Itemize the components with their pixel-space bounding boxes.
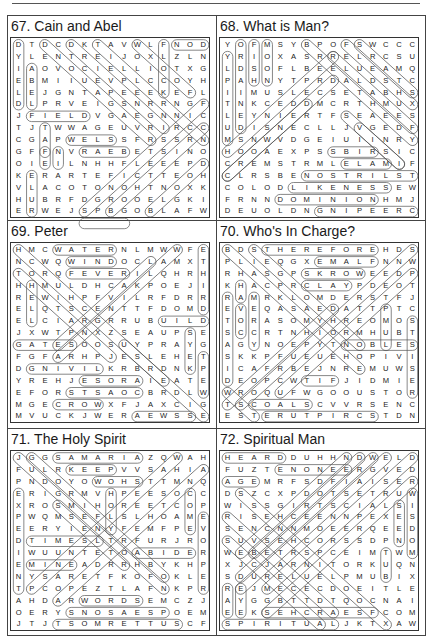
grid-letter: M [313,292,326,304]
grid-letter: F [25,387,38,399]
grid-letter: D [287,205,300,217]
grid-letter: P [170,327,183,339]
grid-letter: S [104,339,117,351]
grid-letter: P [12,476,25,488]
grid-letter: U [52,547,65,559]
letter-grid-cells: JGGSAMARIAZQWAHFULRKEEPVVSAHIAPNDOYOWOHS… [12,452,210,630]
grid-letter: P [261,351,274,363]
grid-letter: U [25,194,38,206]
grid-letter: F [197,98,210,110]
grid-letter: E [170,170,183,182]
grid-letter: A [392,595,405,607]
grid-letter: O [91,595,104,607]
grid-letter: A [38,134,51,146]
grid-letter: K [353,618,366,630]
grid-letter: N [300,559,313,571]
grid-letter: S [65,339,78,351]
grid-letter: U [38,547,51,559]
grid-letter: I [366,170,379,182]
grid-letter: E [131,488,144,500]
grid-letter: I [353,134,366,146]
grid-letter: Q [406,63,419,75]
grid-letter: E [300,351,313,363]
grid-letter: E [12,315,25,327]
grid-letter: O [274,339,287,351]
grid-letter: T [287,75,300,87]
grid-letter: W [366,452,379,464]
grid-letter: V [104,292,117,304]
grid-letter: L [131,292,144,304]
grid-letter: L [353,51,366,63]
grid-letter: M [379,158,392,170]
grid-letter: C [25,256,38,268]
grid-letter: O [353,595,366,607]
grid-letter: M [366,363,379,375]
grid-letter: G [197,339,210,351]
grid-letter: R [78,146,91,158]
grid-letter: Y [274,75,287,87]
grid-letter: T [261,244,274,256]
grid-letter: D [234,571,247,583]
grid-letter: N [247,194,260,206]
grid-letter: D [327,583,340,595]
grid-letter: A [366,500,379,512]
grid-letter: K [366,559,379,571]
grid-letter: T [197,351,210,363]
grid-letter: R [65,488,78,500]
grid-letter: G [12,339,25,351]
grid-letter: R [52,387,65,399]
grid-letter: F [157,523,170,535]
grid-letter: S [234,399,247,411]
grid-letter: P [104,87,117,99]
grid-letter: M [406,547,419,559]
grid-letter: K [183,194,196,206]
grid-letter: U [118,122,131,134]
grid-letter: E [300,511,313,523]
grid-letter: N [274,523,287,535]
letter-grid: DTDCDKTAVWLFNODYLENTREIJOXLZLNIAOVOCIELL… [10,37,210,218]
grid-letter: F [144,303,157,315]
grid-letter: E [340,547,353,559]
grid-letter: E [157,158,170,170]
grid-letter: P [65,583,78,595]
grid-letter: S [234,488,247,500]
grid-letter: P [197,559,210,571]
grid-letter: I [313,375,326,387]
grid-letter: Q [157,452,170,464]
grid-letter: I [52,363,65,375]
grid-letter: R [392,205,405,217]
grid-letter: D [234,122,247,134]
grid-letter: T [353,87,366,99]
grid-letter: T [379,410,392,422]
grid-letter: P [197,363,210,375]
grid-letter: B [247,547,260,559]
grid-letter: O [313,535,326,547]
grid-letter: D [234,63,247,75]
grid-letter: C [52,182,65,194]
grid-letter: Y [247,110,260,122]
grid-letter: L [221,110,234,122]
grid-letter: S [366,387,379,399]
grid-letter: N [131,98,144,110]
grid-letter: G [261,595,274,607]
puzzle-68: 68. What is Man? YOFMSYBPOFSWCCCYRIOXASR… [219,18,423,218]
grid-letter: F [247,39,260,51]
puzzle-title: 72. Spiritual Man [219,431,423,450]
grid-letter: J [313,363,326,375]
grid-letter: S [65,303,78,315]
grid-letter: R [52,98,65,110]
grid-letter: E [379,280,392,292]
grid-letter: M [247,87,260,99]
grid-letter: T [300,410,313,422]
grid-letter: O [234,39,247,51]
grid-letter: F [65,194,78,206]
grid-letter: C [221,170,234,182]
grid-letter: D [78,280,91,292]
grid-letter: B [144,205,157,217]
grid-letter: E [340,464,353,476]
grid-letter: S [144,607,157,619]
grid-letter: N [104,182,117,194]
grid-letter: Y [221,39,234,51]
grid-letter: A [340,256,353,268]
grid-letter: R [104,194,117,206]
